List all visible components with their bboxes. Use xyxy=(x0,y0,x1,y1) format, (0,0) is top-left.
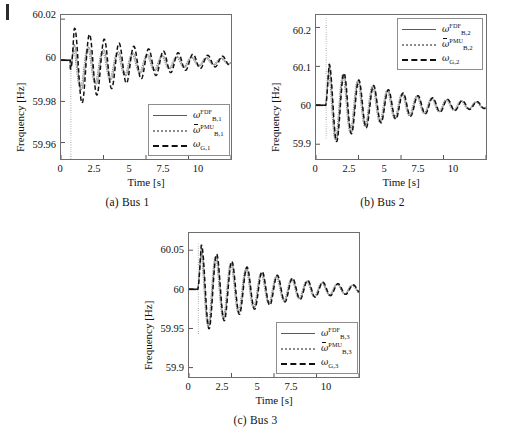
y-tick-label: 60 xyxy=(8,52,56,63)
y-axis-label-bus3: Frequency [Hz] xyxy=(142,301,154,370)
x-tick-label: 10 xyxy=(443,163,463,174)
y-tick-label: 60 xyxy=(136,284,184,295)
legend-item: ωFDFB,3 xyxy=(281,326,353,341)
x-tick-label: 0 xyxy=(50,163,70,174)
legend-label: ωG,1 xyxy=(193,140,210,152)
y-tick-label: 60 xyxy=(263,100,311,111)
x-tick-label: 7.5 xyxy=(281,381,301,392)
line-sample-dashed-icon xyxy=(402,55,436,64)
x-tick-label: 2.5 xyxy=(339,163,359,174)
legend-item: ωG,1 xyxy=(153,138,225,153)
y-tick-label: 59.98 xyxy=(8,96,56,107)
legend-label: ωG,2 xyxy=(442,54,459,66)
legend-item: ωG,2 xyxy=(402,52,478,67)
legend-item: ωG,3 xyxy=(281,356,353,371)
x-tick-label: 5 xyxy=(247,381,267,392)
figure-frequency-responses: Frequency [Hz] ωFDFB,1 ωPMUB,1 ωG,1 60.0… xyxy=(0,0,510,436)
x-axis-label-bus2: Time [s] xyxy=(315,176,487,188)
y-tick-label: 60.1 xyxy=(263,62,311,73)
line-sample-dotted-icon xyxy=(281,344,315,353)
x-tick-label: 2.5 xyxy=(84,163,104,174)
legend-item: ωFDFB,1 xyxy=(153,108,225,123)
legend-label: ωFDFB,2 xyxy=(442,23,471,37)
legend-label: ωPMUB,2 xyxy=(442,38,473,52)
line-sample-solid-icon xyxy=(402,25,436,34)
x-tick-label: 5 xyxy=(374,163,394,174)
line-sample-dashed-icon xyxy=(281,359,315,368)
legend-item: ωPMUB,3 xyxy=(281,341,353,356)
x-tick-label: 0 xyxy=(305,163,325,174)
y-tick-label: 60.02 xyxy=(8,9,56,20)
panel-bus-1: Frequency [Hz] ωFDFB,1 ωPMUB,1 ωG,1 60.0… xyxy=(0,0,255,218)
x-tick-label: 0 xyxy=(178,381,198,392)
legend-item: ωPMUB,2 xyxy=(402,37,478,52)
legend-item: ωFDFB,2 xyxy=(402,22,478,37)
x-axis-label-bus3: Time [s] xyxy=(188,394,360,406)
legend-bus3: ωFDFB,3 ωPMUB,3 ωG,3 xyxy=(276,322,358,374)
panel-bus-2: Frequency [Hz] ωFDFB,2 ωPMUB,2 ωG,2 60.2… xyxy=(255,0,510,218)
caption-bus1: (a) Bus 1 xyxy=(0,196,255,208)
caption-bus3: (c) Bus 3 xyxy=(128,414,383,426)
y-tick-label: 60.2 xyxy=(263,25,311,36)
legend-label: ωFDFB,3 xyxy=(321,327,350,341)
legend-label: ωG,3 xyxy=(321,358,338,370)
x-tick-label: 2.5 xyxy=(212,381,232,392)
legend-label: ωFDFB,1 xyxy=(193,109,222,123)
x-tick-label: 5 xyxy=(119,163,139,174)
legend-item: ωPMUB,1 xyxy=(153,123,225,138)
y-tick-label: 59.95 xyxy=(136,323,184,334)
legend-label: ωPMUB,3 xyxy=(321,342,352,356)
y-tick-label: 59.9 xyxy=(263,138,311,149)
x-tick-label: 10 xyxy=(188,163,208,174)
y-tick-label: 60.05 xyxy=(136,244,184,255)
panel-bus-3: Frequency [Hz] ωFDFB,3 ωPMUB,3 ωG,3 60.0… xyxy=(128,218,383,436)
line-sample-dotted-icon xyxy=(153,126,187,135)
x-axis-label-bus1: Time [s] xyxy=(60,176,232,188)
line-sample-solid-icon xyxy=(153,111,187,120)
legend-bus2: ωFDFB,2 ωPMUB,2 ωG,2 xyxy=(397,18,483,70)
line-sample-solid-icon xyxy=(281,329,315,338)
y-tick-label: 59.9 xyxy=(136,362,184,373)
y-tick-label: 59.96 xyxy=(8,139,56,150)
caption-bus2: (b) Bus 2 xyxy=(255,196,510,208)
line-sample-dotted-icon xyxy=(402,40,436,49)
line-sample-dashed-icon xyxy=(153,141,187,150)
x-tick-label: 10 xyxy=(316,381,336,392)
x-tick-label: 7.5 xyxy=(153,163,173,174)
x-tick-label: 7.5 xyxy=(408,163,428,174)
legend-label: ωPMUB,1 xyxy=(193,124,224,138)
legend-bus1: ωFDFB,1 ωPMUB,1 ωG,1 xyxy=(148,104,230,156)
